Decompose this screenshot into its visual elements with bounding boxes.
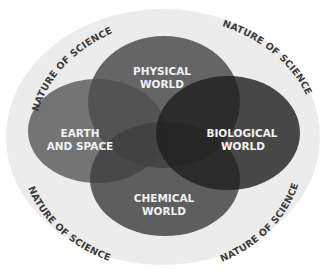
- label-physical-line1: PHYSICAL: [133, 65, 191, 77]
- label-biological-line2: WORLD: [221, 140, 265, 152]
- venn-diagram: PHYSICAL WORLD EARTH AND SPACE BIOLOGICA…: [0, 0, 327, 274]
- label-physical-line2: WORLD: [140, 78, 184, 90]
- label-biological-line1: BIOLOGICAL: [206, 127, 277, 139]
- label-chemical-line2: WORLD: [142, 205, 186, 217]
- label-earth-line2: AND SPACE: [47, 140, 114, 152]
- label-earth-line1: EARTH: [61, 127, 100, 139]
- label-chemical-line1: CHEMICAL: [134, 192, 195, 204]
